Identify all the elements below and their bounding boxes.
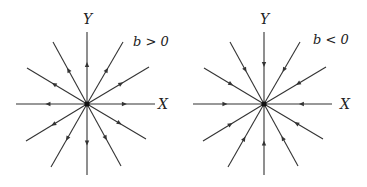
trajectory-line <box>264 104 298 166</box>
trajectory-line <box>203 104 264 141</box>
y-axis-label-right: Y <box>260 11 271 27</box>
panel-b-positive <box>16 32 155 175</box>
arrowhead-icon <box>299 102 304 106</box>
trajectory-line <box>264 104 323 139</box>
x-axis-label-right: X <box>339 96 351 112</box>
trajectory-line <box>230 42 264 104</box>
trajectory-line <box>51 104 87 167</box>
critical-point <box>261 101 266 106</box>
trajectory-line <box>264 42 300 104</box>
condition-label-right: b < 0 <box>313 32 349 47</box>
trajectory-line <box>87 42 123 104</box>
x-axis-label-left: X <box>157 96 169 112</box>
condition-label-left: b > 0 <box>133 34 169 49</box>
trajectory-line <box>27 68 87 104</box>
arrowhead-icon <box>262 62 266 67</box>
arrowhead-icon <box>262 141 266 146</box>
y-axis-label-left: Y <box>83 11 94 27</box>
trajectory-line <box>87 104 121 166</box>
trajectory-line <box>87 67 149 104</box>
arrowhead-icon <box>222 102 227 106</box>
panel-b-negative <box>193 32 332 175</box>
phase-portraits: Y X b > 0 Y X b < 0 <box>0 0 367 187</box>
trajectory-line <box>204 68 264 104</box>
trajectory-line <box>264 67 326 104</box>
trajectory-line <box>87 104 146 139</box>
critical-point <box>84 101 89 106</box>
trajectory-line <box>26 104 87 141</box>
trajectory-line <box>53 42 87 104</box>
arrowhead-icon <box>45 102 50 106</box>
arrowhead-icon <box>85 141 89 146</box>
arrowhead-icon <box>122 102 127 106</box>
trajectory-line <box>228 104 264 167</box>
arrowhead-icon <box>85 62 89 67</box>
